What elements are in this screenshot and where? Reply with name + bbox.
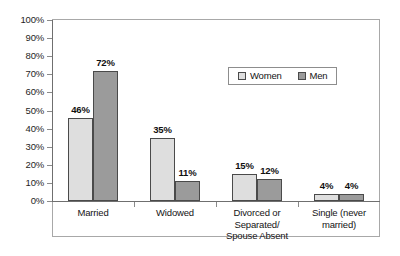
bar-men-3	[339, 194, 364, 201]
y-axis-tick-label: 40%	[0, 124, 44, 134]
category-label-line: Spouse Absent	[206, 230, 308, 242]
chart-legend: WomenMen	[228, 67, 337, 85]
category-label-3: Single (nevermarried)	[288, 207, 390, 230]
bar-men-0	[93, 71, 118, 201]
bar-men-1	[175, 181, 200, 201]
bar-men-2	[257, 179, 282, 201]
legend-label: Men	[310, 71, 328, 81]
y-axis-tick-label: 70%	[0, 69, 44, 79]
legend-label: Women	[250, 71, 282, 81]
y-axis-tick-label: 10%	[0, 178, 44, 188]
category-label-line: married)	[288, 219, 390, 231]
bar-women-3	[314, 194, 339, 201]
bar-value-label: 72%	[87, 58, 124, 68]
bar-value-label: 12%	[251, 166, 288, 176]
y-axis-tick-label: 60%	[0, 87, 44, 97]
y-axis-tick-label: 30%	[0, 142, 44, 152]
y-axis-tick-label: 90%	[0, 33, 44, 43]
y-axis-tick-label: 80%	[0, 51, 44, 61]
y-axis-tick-label: 20%	[0, 160, 44, 170]
legend-entry-men: Men	[298, 71, 328, 81]
bar-value-label: 35%	[144, 125, 181, 135]
bar-value-label: 4%	[333, 181, 370, 191]
legend-swatch-men-icon	[298, 72, 306, 80]
y-axis-tick-label: 100%	[0, 15, 44, 25]
bar-women-2	[232, 174, 257, 201]
bar-value-label: 11%	[169, 168, 206, 178]
y-axis-tick-label: 50%	[0, 106, 44, 116]
y-axis-tick-label: 0%	[0, 196, 44, 206]
legend-entry-women: Women	[238, 71, 282, 81]
category-label-line: Single (never	[288, 207, 390, 219]
legend-swatch-women-icon	[238, 72, 246, 80]
bar-women-0	[68, 118, 93, 201]
